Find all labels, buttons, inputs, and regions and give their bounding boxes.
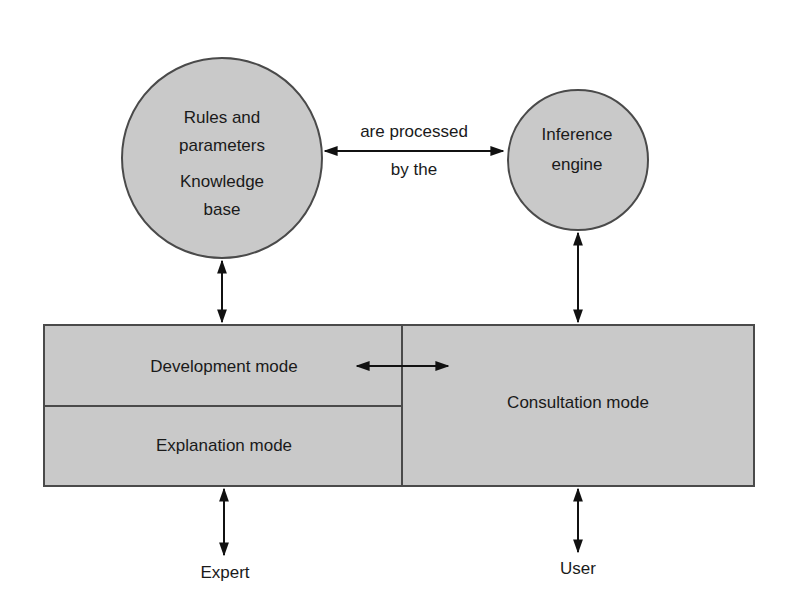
consultation-mode-label: Consultation mode xyxy=(507,392,649,414)
kb-label-base: base xyxy=(204,199,241,221)
expert-label: Expert xyxy=(200,562,249,584)
user-label: User xyxy=(560,558,596,580)
diagram-canvas xyxy=(0,0,794,612)
knowledge-base-circle xyxy=(122,58,322,258)
edge-label-are-processed: are processed xyxy=(360,121,468,143)
development-mode-label: Development mode xyxy=(150,356,297,378)
kb-label-knowledge: Knowledge xyxy=(180,171,264,193)
kb-label-parameters: parameters xyxy=(179,135,265,157)
edge-label-by-the: by the xyxy=(391,159,437,181)
engine-label-inference: Inference xyxy=(542,124,613,146)
kb-label-rules: Rules and xyxy=(184,107,261,129)
engine-label-engine: engine xyxy=(551,154,602,176)
explanation-mode-label: Explanation mode xyxy=(156,435,292,457)
